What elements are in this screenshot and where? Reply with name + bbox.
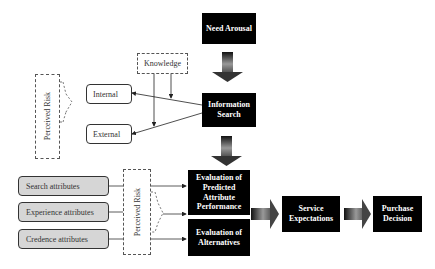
block-arrow-right-icon	[251, 199, 279, 229]
service-expectations-label: Service Expectations	[286, 204, 336, 223]
search-attributes-box: Search attributes	[18, 176, 109, 196]
evaluation-alternatives-label: Evaluation of Alternatives	[192, 228, 246, 247]
search-attributes-label: Search attributes	[26, 182, 80, 191]
block-arrow-down-icon	[211, 136, 242, 166]
service-expectations-box: Service Expectations	[282, 196, 340, 232]
evaluation-predicted-label: Evaluation of Predicted Attribute Perfor…	[192, 173, 246, 211]
perceived-risk-top-label: Perceived Risk	[43, 92, 52, 140]
information-search-label: Information Search	[208, 100, 250, 119]
knowledge-label: Knowledge	[144, 59, 181, 68]
information-search-box: Information Search	[202, 93, 256, 127]
purchase-decision-label: Purchase Decision	[377, 204, 418, 223]
block-arrow-down-icon	[212, 52, 243, 82]
purchase-decision-box: Purchase Decision	[373, 196, 422, 232]
knowledge-box: Knowledge	[137, 53, 188, 74]
evaluation-predicted-box: Evaluation of Predicted Attribute Perfor…	[188, 170, 250, 215]
internal-box: Internal	[86, 84, 132, 104]
experience-attributes-box: Experience attributes	[18, 202, 109, 222]
perceived-risk-bottom-label: Perceived Risk	[133, 188, 142, 236]
credence-attributes-label: Credence attributes	[26, 235, 88, 244]
need-arousal-box: Need Arousal	[202, 13, 256, 44]
credence-attributes-box: Credence attributes	[18, 229, 109, 249]
need-arousal-label: Need Arousal	[206, 24, 252, 34]
external-label: External	[93, 130, 120, 139]
perceived-risk-bottom-box: Perceived Risk	[123, 169, 151, 255]
external-box: External	[86, 124, 132, 144]
experience-attributes-label: Experience attributes	[26, 208, 94, 217]
perceived-risk-top-box: Perceived Risk	[35, 74, 60, 159]
evaluation-alternatives-box: Evaluation of Alternatives	[188, 219, 250, 256]
internal-label: Internal	[93, 90, 118, 99]
block-arrow-right-icon	[344, 199, 371, 229]
